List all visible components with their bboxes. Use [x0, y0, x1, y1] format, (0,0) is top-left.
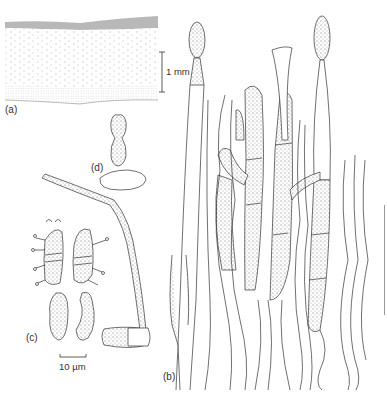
scale-bar-10um	[60, 354, 86, 357]
panel-c-spores	[32, 220, 109, 341]
figure-illustration	[0, 0, 387, 394]
panel-label-c: (c)	[26, 333, 38, 343]
panel-d-cell	[100, 115, 146, 190]
panel-label-d: (d)	[91, 163, 103, 173]
scale-label-1mm: 1 mm	[166, 67, 190, 77]
panel-label-a: (a)	[5, 105, 17, 115]
panel-b-hyphae	[170, 16, 368, 390]
scale-bar-1mm	[159, 52, 165, 92]
scale-label-10um: 10 µm	[59, 362, 86, 372]
panel-a-section	[5, 16, 158, 104]
panel-label-b: (b)	[163, 372, 175, 382]
page-gutter-line	[384, 205, 385, 315]
